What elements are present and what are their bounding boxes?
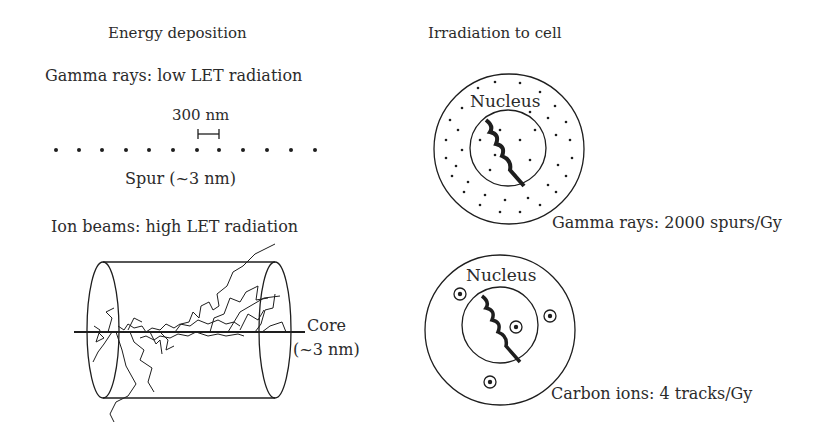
scale-bar bbox=[198, 129, 219, 139]
dna-strand bbox=[486, 120, 524, 186]
gamma-spur-dots bbox=[445, 81, 574, 214]
spur-dots bbox=[54, 148, 317, 152]
carbon-cell bbox=[425, 255, 575, 405]
gamma-cell bbox=[434, 74, 584, 224]
carbon-dna-strand bbox=[482, 296, 520, 362]
diagram-canvas bbox=[0, 0, 831, 422]
